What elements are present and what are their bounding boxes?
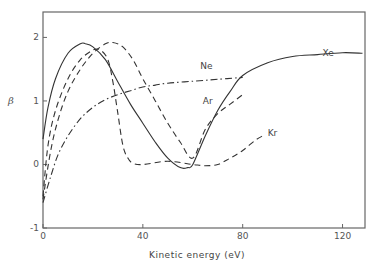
label-kr: Kr [268, 128, 278, 138]
y-tick-label: 0 [33, 159, 39, 169]
y-tick-label: 2 [33, 32, 39, 42]
y-axis-title: β [7, 95, 14, 106]
label-ne: Ne [200, 61, 213, 71]
beta-vs-kinetic-energy-chart: -101204080120 XeNeArKr β Kinetic energy … [0, 0, 379, 264]
label-ar: Ar [203, 96, 213, 106]
label-xe: Xe [323, 48, 335, 58]
plot-frame [43, 12, 365, 228]
x-tick-label: 40 [137, 231, 149, 241]
series-ne-line [43, 77, 243, 202]
x-tick-label: 80 [237, 231, 249, 241]
series-labels: XeNeArKr [200, 48, 334, 137]
series-kr-line [43, 49, 263, 196]
y-tick-label: -1 [30, 223, 39, 233]
plot-border [43, 12, 365, 228]
x-tick-label: 0 [40, 231, 46, 241]
axis-ticks: -101204080120 [30, 32, 351, 241]
y-tick-label: 1 [33, 96, 39, 106]
x-tick-label: 120 [334, 231, 351, 241]
x-axis-title: Kinetic energy (eV) [149, 250, 245, 260]
